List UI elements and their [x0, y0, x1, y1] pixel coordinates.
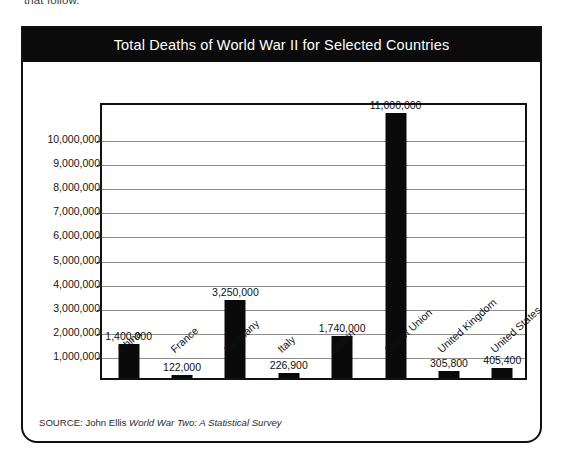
bar-united-states[interactable] [492, 368, 513, 378]
page-top-text-fragment: that follow. [24, 0, 144, 8]
bar-value-label: 226,900 [270, 359, 308, 371]
plot-wrapper: 1,000,0002,000,0003,000,0004,000,0005,00… [23, 62, 544, 445]
bar-value-label: 122,000 [163, 361, 201, 373]
y-axis-tick-label: 6,000,000 [53, 229, 100, 241]
chart-title-bar: Total Deaths of World War II for Selecte… [23, 28, 540, 62]
y-axis-tick-label: 7,000,000 [53, 205, 100, 217]
y-axis-tick-label: 2,000,000 [53, 326, 100, 338]
y-axis-tick-label: 4,000,000 [53, 278, 100, 290]
chart-title: Total Deaths of World War II for Selecte… [114, 37, 450, 53]
source-book-title: World War Two: A Statistical Survey [129, 417, 281, 428]
chart-figure: Total Deaths of World War II for Selecte… [21, 26, 542, 443]
bar-france[interactable] [172, 375, 193, 378]
y-axis-tick-label: 10,000,000 [47, 133, 100, 145]
y-axis-tick-label: 8,000,000 [53, 181, 100, 193]
bar-italy[interactable] [278, 373, 299, 378]
bar-value-label: 11,000,000 [370, 99, 422, 111]
source-prefix: SOURCE: John Ellis [39, 417, 129, 428]
bar-value-label: 3,250,000 [212, 286, 259, 298]
y-axis-tick-label: 3,000,000 [53, 302, 100, 314]
y-axis-tick-label: 9,000,000 [53, 157, 100, 169]
y-axis-tick-label: 5,000,000 [53, 254, 100, 266]
plot-area: 1,400,000122,0003,250,000226,9001,740,00… [100, 103, 527, 380]
source-note: SOURCE: John Ellis World War Two: A Stat… [39, 417, 282, 428]
bar-value-label: 405,400 [483, 354, 521, 366]
y-axis: 1,000,0002,000,0003,000,0004,000,0005,00… [31, 62, 100, 380]
y-axis-tick-label: 1,000,000 [53, 350, 100, 362]
bar-value-label: 305,800 [430, 357, 468, 369]
bar-united-kingdom[interactable] [438, 371, 459, 378]
